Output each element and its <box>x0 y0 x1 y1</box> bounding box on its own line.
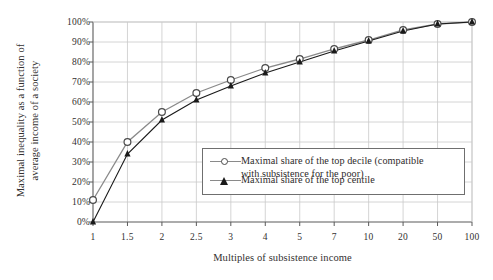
axis-ticks <box>89 22 472 226</box>
plot-area <box>0 0 493 280</box>
chart-legend: Maximal share of the top decile (compati… <box>202 148 465 195</box>
open-circle-marker-icon <box>210 155 241 168</box>
x-axis-title: Multiples of subsistence income <box>93 252 472 263</box>
legend-label-centile: Maximal share of the top centile <box>241 173 375 186</box>
legend-label-decile-line1: Maximal share of the top decile (compati… <box>241 155 424 166</box>
legend-item-decile: Maximal share of the top decile (compati… <box>210 154 458 173</box>
chart-figure: Maximal inequality as a function of aver… <box>0 0 493 280</box>
filled-triangle-marker-icon <box>210 174 241 187</box>
